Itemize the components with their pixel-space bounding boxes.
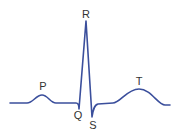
label-s: S [89,119,96,131]
ecg-diagram: P R Q S T [0,0,181,139]
ecg-trace [10,21,170,117]
label-r: R [82,8,90,20]
label-t: T [136,75,143,87]
label-q: Q [74,109,83,121]
label-p: P [39,80,46,92]
